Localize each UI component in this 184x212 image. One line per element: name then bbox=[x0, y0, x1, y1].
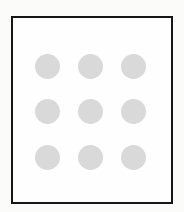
dot-cell bbox=[69, 134, 112, 180]
dot-r1-c1 bbox=[35, 54, 60, 79]
figure-canvas bbox=[0, 0, 184, 212]
dot-r2-c2 bbox=[78, 99, 103, 124]
dot-cell bbox=[26, 43, 69, 89]
dot-cell bbox=[112, 43, 155, 89]
bordered-card bbox=[11, 16, 173, 204]
dot-cell bbox=[26, 89, 69, 135]
dot-r1-c2 bbox=[78, 54, 103, 79]
dot-cell bbox=[69, 89, 112, 135]
dot-cell bbox=[112, 89, 155, 135]
card-surface bbox=[13, 18, 171, 202]
dot-cell bbox=[69, 43, 112, 89]
dot-r3-c2 bbox=[78, 145, 103, 170]
dot-grid bbox=[26, 43, 155, 180]
dot-r1-c3 bbox=[121, 54, 146, 79]
dot-cell bbox=[26, 134, 69, 180]
dot-r3-c3 bbox=[121, 145, 146, 170]
dot-r2-c1 bbox=[35, 99, 60, 124]
dot-cell bbox=[112, 134, 155, 180]
dot-r2-c3 bbox=[121, 99, 146, 124]
dot-r3-c1 bbox=[35, 145, 60, 170]
